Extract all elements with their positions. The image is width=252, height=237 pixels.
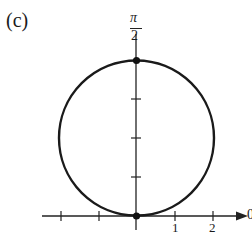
- axis-label-pi: π: [130, 10, 137, 26]
- tick-label-1: 1: [172, 220, 179, 236]
- tick-label-2: 2: [209, 220, 216, 236]
- polar-axis-label: 0: [247, 207, 252, 223]
- point-pole: [133, 212, 140, 219]
- point-top: [133, 57, 140, 64]
- polar-plot: [0, 0, 252, 237]
- axis-label-2: 2: [131, 28, 138, 44]
- panel-label: (c): [6, 9, 28, 32]
